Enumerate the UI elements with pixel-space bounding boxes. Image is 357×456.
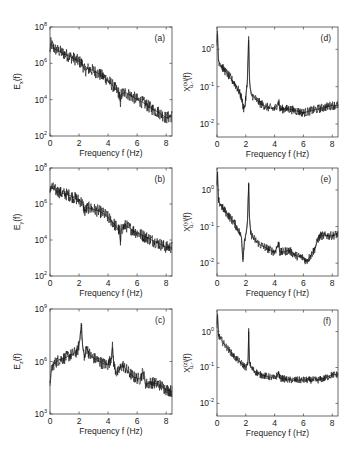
x-tick-label: 2	[243, 418, 248, 428]
y-tick-label: 100	[201, 43, 214, 54]
y-tick-label: 100	[201, 184, 214, 195]
x-axis-label: Frequency f (Hz)	[79, 426, 142, 436]
panel-b: 02468Frequency f (Hz)102104106108Ey(f)(b…	[12, 162, 172, 298]
y-tick-label: 10-1	[200, 221, 214, 232]
x-tick-label: 0	[215, 418, 220, 428]
series-E_z	[50, 325, 172, 397]
panel-label: (c)	[155, 315, 165, 325]
x-tick-label: 8	[164, 278, 169, 288]
x-tick-label: 6	[301, 278, 306, 288]
x-tick-label: 0	[215, 139, 220, 149]
y-tick-label: 106	[34, 57, 47, 68]
series-envelope-X_x	[217, 31, 338, 113]
figure: 02468Frequency f (Hz)102104106108Ex(f)(a…	[0, 0, 357, 456]
x-tick-label: 6	[135, 138, 140, 148]
x-tick-label: 6	[135, 278, 140, 288]
x-tick-label: 8	[330, 418, 335, 428]
y-tick-label: 10-2	[200, 397, 214, 408]
y-axis-label: Ez(f)	[12, 353, 24, 370]
x-tick-label: 0	[215, 278, 220, 288]
x-tick-label: 4	[272, 278, 277, 288]
y-axis-label: X(z)u,-(f)	[182, 353, 194, 373]
y-tick-label: 10-2	[200, 118, 214, 129]
y-tick-label: 103	[34, 408, 47, 419]
x-tick-label: 8	[164, 416, 169, 426]
x-tick-label: 0	[48, 138, 53, 148]
y-tick-label: 10-2	[200, 257, 214, 268]
series-E_x	[50, 37, 172, 123]
panel-label: (d)	[321, 33, 332, 43]
x-tick-label: 8	[330, 139, 335, 149]
x-tick-label: 2	[77, 278, 82, 288]
y-tick-label: 106	[34, 198, 47, 209]
x-tick-label: 0	[48, 416, 53, 426]
y-tick-label: 104	[34, 234, 47, 245]
panel-label: (b)	[155, 174, 166, 184]
series-X_y	[217, 172, 338, 264]
y-axis-label: X(y)u,-(f)	[182, 212, 194, 232]
y-tick-label: 102	[34, 130, 47, 141]
x-axis-label: Frequency f (Hz)	[246, 288, 309, 298]
series-envelope-E_z	[50, 323, 172, 391]
panel-label: (a)	[155, 33, 166, 43]
x-axis-label: Frequency f (Hz)	[246, 428, 309, 438]
panel-f: 02468Frequency f (Hz)10-210-1100X(z)u,-(…	[182, 310, 339, 438]
panel-d: 02468Frequency f (Hz)10-210-1100X(x)u,-(…	[182, 27, 339, 159]
x-tick-label: 4	[272, 139, 277, 149]
y-tick-label: 104	[34, 94, 47, 105]
panel-c: 02468Frequency f (Hz)103106109Ez(f)(c)	[12, 303, 172, 436]
panel-a: 02468Frequency f (Hz)102104106108Ex(f)(a…	[12, 21, 172, 158]
y-tick-label: 102	[34, 270, 47, 281]
y-tick-label: 106	[34, 356, 47, 367]
y-tick-label: 108	[34, 21, 47, 32]
panel-e: 02468Frequency f (Hz)10-210-1100X(y)u,-(…	[182, 168, 339, 298]
y-tick-label: 10-1	[200, 361, 214, 372]
x-axis-label: Frequency f (Hz)	[246, 149, 309, 159]
panel-label: (f)	[323, 316, 331, 326]
x-axis-label: Frequency f (Hz)	[79, 288, 142, 298]
x-tick-label: 4	[106, 278, 111, 288]
y-tick-label: 10-1	[200, 81, 214, 92]
series-envelope-X_z	[217, 314, 338, 380]
x-tick-label: 6	[301, 139, 306, 149]
x-tick-label: 6	[135, 416, 140, 426]
x-tick-label: 6	[301, 418, 306, 428]
x-tick-label: 4	[106, 138, 111, 148]
series-X_z	[217, 315, 338, 384]
y-tick-label: 108	[34, 162, 47, 173]
y-tick-label: 100	[201, 326, 214, 337]
y-tick-label: 109	[34, 303, 47, 314]
x-tick-label: 2	[77, 416, 82, 426]
y-axis-label: Ex(f)	[12, 73, 24, 90]
series-E_y	[50, 183, 172, 253]
x-tick-label: 4	[272, 418, 277, 428]
x-tick-label: 2	[243, 139, 248, 149]
x-tick-label: 8	[164, 138, 169, 148]
x-tick-label: 4	[106, 416, 111, 426]
plot-frame	[217, 310, 338, 416]
x-axis-label: Frequency f (Hz)	[79, 148, 142, 158]
y-axis-label: X(x)u,-(f)	[182, 72, 194, 92]
x-tick-label: 2	[77, 138, 82, 148]
plot-frame	[217, 27, 338, 137]
x-tick-label: 2	[243, 278, 248, 288]
x-tick-label: 0	[48, 278, 53, 288]
y-axis-label: Ey(f)	[12, 214, 24, 231]
x-tick-label: 8	[330, 278, 335, 288]
series-envelope-X_y	[217, 172, 338, 262]
panel-label: (e)	[321, 174, 332, 184]
